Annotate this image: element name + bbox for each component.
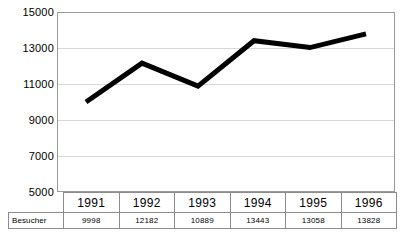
table-value-cell: 10889: [175, 213, 231, 229]
chart-figure: 15000 13000 11000 9000 7000 5000: [0, 0, 410, 238]
y-axis-tick-label: 7000: [2, 151, 54, 162]
plot-area: [57, 12, 395, 192]
data-table: 1991 1992 1993 1994 1995 1996 Besucher 9…: [8, 192, 397, 229]
y-axis-tick-label: 9000: [2, 115, 54, 126]
table-header-cell: 1991: [64, 193, 120, 213]
table-value-cell: 13058: [286, 213, 342, 229]
y-axis-tick-label: 11000: [2, 79, 54, 90]
table-header-row: 1991 1992 1993 1994 1995 1996: [9, 193, 397, 213]
table-header-cell: 1996: [341, 193, 397, 213]
table-value-cell: 13828: [341, 213, 397, 229]
table-header-cell: 1994: [230, 193, 286, 213]
table-row-label: Besucher: [9, 213, 64, 229]
table-header-cell: 1992: [119, 193, 175, 213]
table-value-cell: 13443: [230, 213, 286, 229]
table-corner-cell: [9, 193, 64, 213]
table-value-cell: 9998: [64, 213, 120, 229]
series-line-besucher: [58, 13, 394, 191]
table-header-cell: 1993: [175, 193, 231, 213]
y-axis-tick-label: 13000: [2, 43, 54, 54]
table-value-cell: 12182: [119, 213, 175, 229]
y-axis-tick-label: 15000: [2, 7, 54, 18]
data-table-container: 1991 1992 1993 1994 1995 1996 Besucher 9…: [8, 192, 396, 229]
table-row: Besucher 9998 12182 10889 13443 13058 13…: [9, 213, 397, 229]
table-header-cell: 1995: [286, 193, 342, 213]
